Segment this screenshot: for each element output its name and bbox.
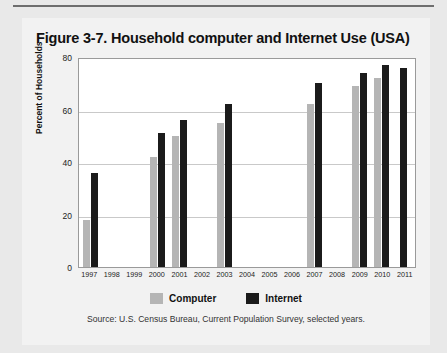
bar-internet-2011	[400, 68, 407, 268]
bars-layer	[79, 59, 415, 267]
legend-label: Computer	[169, 293, 216, 304]
bar-computer-1997	[83, 220, 90, 267]
legend-item-internet: Internet	[246, 293, 302, 304]
bar-internet-2003	[225, 104, 232, 267]
bar-group	[370, 59, 392, 267]
chart-legend: ComputerInternet	[22, 290, 430, 306]
bar-computer-2000	[150, 157, 157, 267]
x-axis-tick-label: 2005	[258, 270, 281, 286]
bar-group	[79, 59, 101, 267]
top-divider-rule	[13, 5, 434, 7]
bar-computer-2001	[172, 136, 179, 267]
bar-computer-2010	[374, 78, 381, 267]
bar-internet-2001	[180, 120, 187, 267]
bar-internet-2000	[158, 133, 165, 267]
bar-group	[236, 59, 258, 267]
x-axis-tick-label: 2000	[146, 270, 169, 286]
y-axis-tick-label: 80	[63, 53, 72, 63]
bar-computer-2007	[307, 104, 314, 267]
chart-plot-wrapper: Percent of Households 020406080 19971998…	[36, 58, 416, 288]
x-axis-tick-label: 1999	[123, 270, 146, 286]
bar-group	[348, 59, 370, 267]
bar-group	[393, 59, 415, 267]
x-axis-tick-label: 2002	[191, 270, 214, 286]
bar-group	[325, 59, 347, 267]
y-axis-tick-label: 40	[63, 158, 72, 168]
bar-group	[191, 59, 213, 267]
bar-internet-1997	[91, 173, 98, 268]
bar-group	[169, 59, 191, 267]
legend-item-computer: Computer	[150, 293, 216, 304]
x-axis-tick-label: 2010	[371, 270, 394, 286]
bar-internet-2007	[315, 83, 322, 267]
y-axis-label: Percent of Households	[34, 41, 44, 134]
y-axis-tick-label: 20	[63, 211, 72, 221]
bar-group	[258, 59, 280, 267]
x-axis-tick-label: 2007	[303, 270, 326, 286]
bar-group	[101, 59, 123, 267]
bar-computer-2009	[352, 86, 359, 267]
bar-group	[124, 59, 146, 267]
figure-title: Figure 3-7. Household computer and Inter…	[36, 30, 410, 46]
x-axis-ticks: 1997199819992000200120022003200420052006…	[78, 270, 416, 286]
computer-swatch	[150, 293, 163, 304]
x-axis-tick-label: 2003	[213, 270, 236, 286]
y-axis-ticks: 020406080	[46, 58, 76, 268]
x-axis-tick-label: 2004	[236, 270, 259, 286]
internet-swatch	[246, 293, 259, 304]
x-axis-tick-label: 2008	[326, 270, 349, 286]
x-axis-tick-label: 1998	[101, 270, 124, 286]
x-axis-tick-label: 2006	[281, 270, 304, 286]
bar-group	[303, 59, 325, 267]
x-axis-tick-label: 1997	[78, 270, 101, 286]
bar-group	[281, 59, 303, 267]
x-axis-tick-label: 2001	[168, 270, 191, 286]
figure-panel: Figure 3-7. Household computer and Inter…	[22, 18, 430, 345]
y-axis-tick-label: 0	[67, 263, 72, 273]
legend-label: Internet	[265, 293, 302, 304]
y-axis-tick-label: 60	[63, 106, 72, 116]
bar-computer-2003	[217, 123, 224, 267]
bar-group	[146, 59, 168, 267]
source-note: Source: U.S. Census Bureau, Current Popu…	[22, 314, 430, 324]
x-axis-tick-label: 2009	[348, 270, 371, 286]
plot-area	[78, 58, 416, 268]
bar-internet-2009	[360, 73, 367, 267]
x-axis-tick-label: 2011	[393, 270, 416, 286]
bar-internet-2010	[382, 65, 389, 267]
bar-group	[213, 59, 235, 267]
